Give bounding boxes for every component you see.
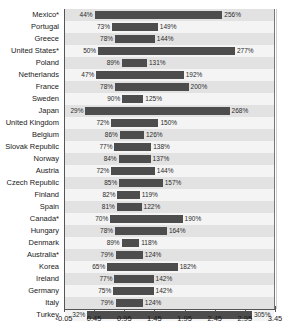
bar-low-value-label: 86% [105,130,120,140]
bar-high-value-label: 190% [183,214,202,224]
table-row: 29%268% [65,105,274,117]
bar-low-value-label: 79% [101,298,116,308]
category-axis-labels: Mexico*PortugalGreeceUnited States*Polan… [0,9,64,321]
range-bar [117,191,139,199]
category-label: Netherlands [0,69,64,81]
plot-area: 44%256%73%149%78%144%50%277%89%131%47%19… [64,9,275,309]
bar-low-value-label: 79% [101,250,116,260]
range-bar [122,239,139,247]
category-label: Canada* [0,213,64,225]
bar-high-value-label: 268% [230,106,249,116]
range-bar [114,275,153,283]
bar-low-value-label: 89% [107,238,122,248]
category-label: United Kingdom [0,117,64,129]
range-bar [116,251,143,259]
bar-high-value-label: 126% [144,130,163,140]
category-label: Greece [0,33,64,45]
category-label: Poland [0,57,64,69]
category-label: Sweden [0,93,64,105]
table-row: 85%157% [65,177,274,189]
table-row: 65%182% [65,261,274,273]
category-label: Czech Republic [0,177,64,189]
bar-high-value-label: 192% [184,70,203,80]
bar-low-value-label: 85% [104,178,119,188]
axis-tick [124,310,125,312]
bar-high-value-label: 138% [151,142,170,152]
bar-low-value-label: 82% [102,190,117,200]
table-row: 72%150% [65,117,274,129]
axis-tick [185,310,186,312]
range-bar [110,215,182,223]
bar-high-value-label: 137% [151,154,170,164]
bar-high-value-label: 200% [189,82,208,92]
category-label: Slovak Republic [0,141,64,153]
category-label: Germany [0,285,64,297]
table-row: 50%277% [65,45,274,57]
table-row: 89%118% [65,237,274,249]
bar-high-value-label: 164% [167,226,186,236]
range-bar [111,167,154,175]
bar-high-value-label: 277% [235,46,254,56]
bar-low-value-label: 29% [70,106,85,116]
bar-low-value-label: 81% [102,202,117,212]
category-label: Austria [0,165,64,177]
axis-tick [245,310,246,312]
bar-low-value-label: 73% [97,22,112,32]
bar-high-value-label: 122% [142,202,161,212]
bar-low-value-label: 84% [104,154,119,164]
bar-high-value-label: 124% [143,298,162,308]
bar-low-value-label: 90% [107,94,122,104]
bar-high-value-label: 149% [158,22,177,32]
value-axis-tick-labels: -0.050.450.951.451.952.452.953.45 [0,314,285,328]
value-axis-line [64,309,275,311]
axis-tick-label: 2.95 [238,314,253,323]
range-bar [119,179,162,187]
table-row: 90%125% [65,93,274,105]
bar-high-value-label: 182% [178,262,197,272]
axis-tick-label: 1.95 [177,314,192,323]
bar-high-value-label: 119% [140,190,158,200]
category-label: Korea [0,261,64,273]
table-row: 78%200% [65,81,274,93]
bar-low-value-label: 89% [107,58,122,68]
bar-low-value-label: 75% [98,286,113,296]
category-label: Portugal [0,21,64,33]
table-row: 89%131% [65,57,274,69]
range-bar-chart: Unemployment benefit replacement rates M… [0,0,285,332]
axis-tick-label: 3.45 [268,314,283,323]
table-row: 44%256% [65,9,274,21]
range-bar [117,203,142,211]
bar-low-value-label: 77% [99,142,114,152]
category-label: Spain [0,201,64,213]
bar-high-value-label: 118% [139,238,157,248]
range-bar [122,95,143,103]
table-row: 78%164% [65,225,274,237]
bar-high-value-label: 124% [143,250,162,260]
table-row: 79%124% [65,249,274,261]
range-bar [115,35,155,43]
range-bar [113,287,153,295]
range-bar [98,47,235,55]
bar-high-value-label: 144% [155,166,174,176]
axis-tick [154,310,155,312]
category-label: Belgium [0,129,64,141]
range-bar [122,59,147,67]
bar-high-value-label: 142% [154,274,173,284]
axis-end-cap [64,306,65,311]
table-row: 77%142% [65,273,274,285]
category-label: Mexico* [0,9,64,21]
bar-low-value-label: 50% [83,46,98,56]
range-bar [96,71,183,79]
bar-high-value-label: 256% [222,10,241,20]
chart-title-sliver: Unemployment benefit replacement rates [0,0,285,8]
bar-high-value-label: 131% [147,58,166,68]
bar-high-value-label: 144% [155,34,174,44]
range-bar [120,131,144,139]
bar-low-value-label: 78% [100,34,115,44]
category-label: Australia* [0,249,64,261]
category-label: Hungary [0,225,64,237]
bar-high-value-label: 157% [163,178,182,188]
bar-low-value-label: 44% [80,10,95,20]
range-bar [95,11,223,19]
bar-low-value-label: 47% [81,70,96,80]
